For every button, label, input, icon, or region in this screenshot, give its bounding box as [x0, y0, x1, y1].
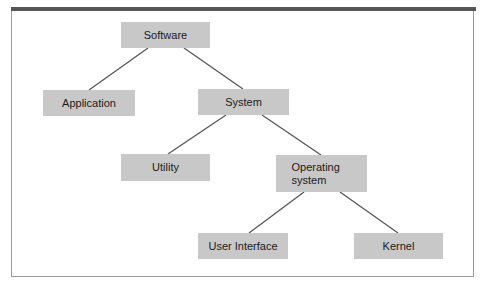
node-label: Operating system	[292, 161, 352, 187]
node-user-interface: User Interface	[198, 233, 288, 259]
edge-system-utility	[168, 115, 226, 154]
node-label: User Interface	[208, 240, 277, 253]
edge-software-system	[184, 48, 243, 89]
node-label: Utility	[152, 161, 179, 174]
edge-system-operating-system	[262, 115, 321, 155]
edge-software-application	[89, 48, 148, 90]
node-utility: Utility	[121, 154, 210, 181]
edge-operating-system-kernel	[340, 192, 398, 233]
node-label: Application	[62, 97, 116, 110]
node-application: Application	[43, 90, 135, 116]
node-label: System	[225, 96, 262, 109]
node-operating-system: Operating system	[276, 155, 367, 192]
node-label: Kernel	[383, 240, 415, 253]
node-system: System	[198, 89, 289, 115]
node-kernel: Kernel	[354, 233, 443, 259]
node-software: Software	[121, 22, 210, 48]
edge-operating-system-user-interface	[249, 192, 304, 233]
node-label: Software	[144, 29, 187, 42]
